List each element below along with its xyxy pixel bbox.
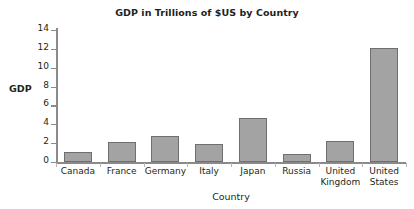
x-tick-label: Russia: [275, 166, 319, 177]
y-tick-label: 6: [43, 98, 49, 108]
y-axis-line: [56, 28, 58, 162]
x-tick-label: Germany: [144, 166, 188, 177]
x-tick-label: France: [100, 166, 144, 177]
x-tick-label: United States: [362, 166, 406, 188]
y-tick-label: 0: [43, 155, 49, 165]
bar: [326, 141, 354, 162]
gdp-bar-chart: GDP in Trillions of $US by Country GDP 0…: [0, 0, 414, 209]
y-tick-mark: [51, 105, 56, 106]
x-tick-label: Japan: [231, 166, 275, 177]
bar: [370, 48, 398, 162]
y-tick-mark: [51, 124, 56, 125]
y-tick-mark: [51, 87, 56, 88]
y-tick-mark: [51, 143, 56, 144]
y-tick-label: 14: [38, 23, 49, 33]
x-tick-mark: [406, 163, 407, 167]
y-tick-label: 10: [38, 61, 49, 71]
x-axis-label: Country: [56, 191, 406, 202]
bar: [108, 142, 136, 162]
bar: [283, 154, 311, 162]
y-tick-label: 4: [43, 117, 49, 127]
x-tick-label: United Kingdom: [319, 166, 363, 188]
y-tick-mark: [51, 49, 56, 50]
plot-area: 02468101214: [56, 30, 406, 162]
bar: [151, 136, 179, 162]
bar: [195, 144, 223, 162]
bar: [64, 152, 92, 162]
y-tick-mark: [51, 68, 56, 69]
y-tick-label: 12: [38, 42, 49, 52]
y-tick-label: 2: [43, 136, 49, 146]
x-tick-label: Canada: [56, 166, 100, 177]
y-tick-label: 8: [43, 80, 49, 90]
x-tick-label: Italy: [187, 166, 231, 177]
y-axis-label: GDP: [9, 83, 32, 94]
bar: [239, 118, 267, 162]
y-tick-mark: [51, 30, 56, 31]
chart-title: GDP in Trillions of $US by Country: [0, 7, 414, 18]
